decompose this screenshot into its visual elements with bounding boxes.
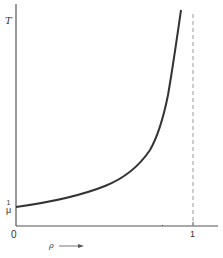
x-axis-label: ρ: [49, 242, 54, 250]
x-tick-label-1: 1: [190, 230, 195, 239]
response-time-curve: [16, 10, 181, 207]
x-tick-label-0: 0: [11, 230, 17, 240]
y-tick-denominator: μ: [5, 206, 12, 215]
y-tick-one-over-mu: 1 μ: [5, 199, 12, 215]
chart-canvas: [0, 0, 223, 258]
y-axis-label: T: [5, 16, 12, 26]
x-minor-mark: [162, 225, 163, 226]
rho-arrow-head: [78, 244, 84, 248]
